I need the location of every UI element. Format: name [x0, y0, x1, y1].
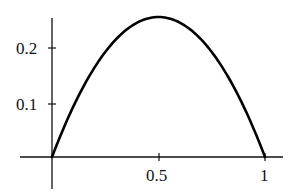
chart: 0.2 0.1 0.5 1 [0, 0, 295, 192]
y-tick-label-0.2: 0.2 [16, 39, 37, 58]
x-tick-label-0.5: 0.5 [146, 166, 167, 185]
curve-line [52, 17, 265, 157]
y-tick-label-0.1: 0.1 [16, 95, 37, 114]
x-tick-label-1: 1 [260, 166, 269, 185]
